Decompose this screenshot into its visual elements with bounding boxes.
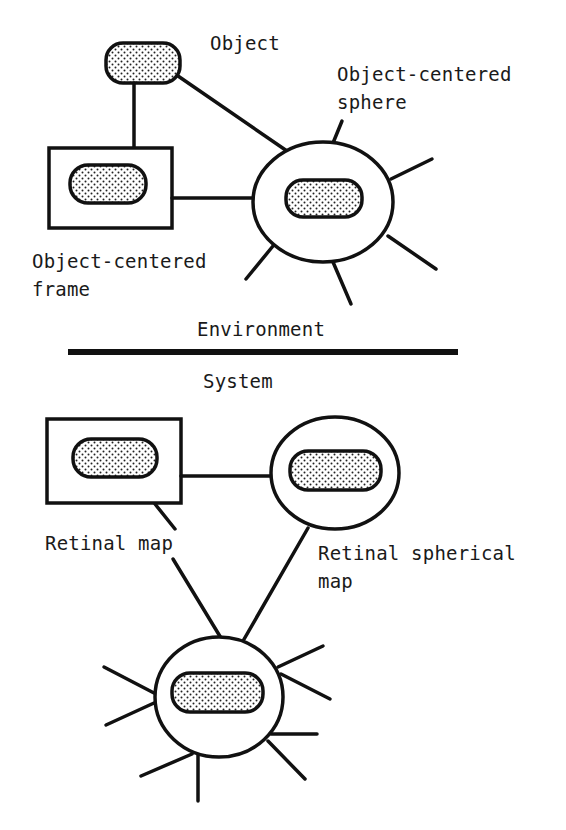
object-centered-sphere-node [246, 121, 436, 304]
retinal-map-node [47, 419, 181, 503]
system-label: System [203, 369, 273, 393]
object-centered-frame-node [49, 148, 172, 228]
retinal-spherical-map-node [271, 417, 399, 529]
object-centered-sphere-label-1: Object-centered [337, 62, 512, 86]
edge-spherical-body [243, 528, 308, 641]
retinal-spherical-map-label-1: Retinal spherical [318, 541, 516, 565]
environment-system-divider [68, 349, 458, 355]
edge-retinal-map-body [173, 559, 221, 638]
retinal-map-label: Retinal map [45, 531, 173, 555]
object-label: Object [210, 31, 280, 55]
diagram-canvas [0, 0, 566, 830]
edge-retinal-map-stub [155, 504, 175, 529]
body-centered-sphere-node [104, 637, 330, 801]
object-centered-frame-label-2: frame [32, 277, 90, 301]
object-node [106, 43, 180, 83]
retinal-spherical-map-label-2: map [318, 569, 353, 593]
object-centered-frame-label-1: Object-centered [32, 249, 207, 273]
object-centered-sphere-label-2: sphere [337, 90, 407, 114]
edge-object-sphere [178, 76, 287, 151]
environment-label: Environment [197, 317, 325, 341]
